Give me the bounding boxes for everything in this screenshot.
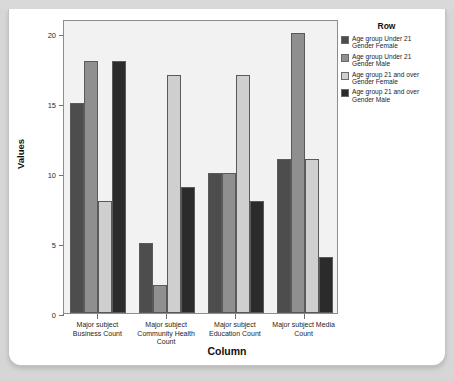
legend-items: Age group Under 21Gender FemaleAge group… bbox=[341, 35, 444, 103]
bar[interactable] bbox=[319, 257, 333, 313]
y-axis-tick-label: 5 bbox=[52, 241, 56, 250]
bar[interactable] bbox=[208, 173, 222, 313]
x-axis-tick bbox=[166, 314, 167, 319]
bar[interactable] bbox=[236, 75, 250, 313]
legend-item-label: Age group 21 and overGender Male bbox=[352, 88, 419, 103]
bar[interactable] bbox=[305, 159, 319, 313]
bar[interactable] bbox=[84, 61, 98, 313]
x-axis-tick-label: Major subject Business Count bbox=[63, 321, 132, 338]
legend-title: Row bbox=[341, 21, 444, 31]
legend-item[interactable]: Age group Under 21Gender Male bbox=[341, 53, 444, 68]
legend-label-line-1: Age group 21 and over bbox=[352, 88, 419, 95]
legend-item-label: Age group Under 21Gender Male bbox=[352, 53, 411, 68]
bars-layer bbox=[64, 21, 337, 313]
x-axis-tick bbox=[235, 314, 236, 319]
x-axis-tick-label: Major subject Community Health Count bbox=[132, 321, 201, 347]
legend-swatch-icon bbox=[341, 89, 349, 97]
bar[interactable] bbox=[112, 61, 126, 313]
bar[interactable] bbox=[70, 103, 84, 313]
legend-label-line-2: Gender Female bbox=[352, 78, 419, 85]
bar[interactable] bbox=[167, 75, 181, 313]
legend-item-label: Age group 21 and overGender Female bbox=[352, 71, 419, 86]
chart-card: 05101520 Values Column Row Age group Und… bbox=[8, 9, 446, 366]
legend-item[interactable]: Age group 21 and overGender Female bbox=[341, 71, 444, 86]
legend-swatch-icon bbox=[341, 36, 349, 44]
bar-group bbox=[270, 21, 339, 313]
x-axis-title: Column bbox=[9, 345, 445, 357]
y-axis-tick-label: 10 bbox=[48, 171, 56, 180]
legend-label-line-2: Gender Male bbox=[352, 96, 419, 103]
bar[interactable] bbox=[98, 201, 112, 313]
legend-swatch-icon bbox=[341, 54, 349, 62]
bar-group bbox=[64, 21, 133, 313]
plot-area bbox=[63, 20, 338, 314]
bar[interactable] bbox=[291, 33, 305, 313]
legend-label-line-2: Gender Female bbox=[352, 42, 411, 49]
legend-label-line-1: Age group Under 21 bbox=[352, 35, 411, 42]
bar[interactable] bbox=[250, 201, 264, 313]
legend-item-label: Age group Under 21Gender Female bbox=[352, 35, 411, 50]
bar[interactable] bbox=[153, 285, 167, 313]
clipped-header-text bbox=[0, 0, 454, 9]
x-axis-tick-label: Major subject Education Count bbox=[201, 321, 270, 338]
bar[interactable] bbox=[139, 243, 153, 313]
legend-label-line-2: Gender Male bbox=[352, 60, 411, 67]
legend: Row Age group Under 21Gender FemaleAge g… bbox=[341, 21, 444, 106]
legend-label-line-1: Age group 21 and over bbox=[352, 71, 419, 78]
x-axis-tick-label: Major subject Media Count bbox=[269, 321, 338, 338]
bar-group bbox=[202, 21, 271, 313]
legend-label-line-1: Age group Under 21 bbox=[352, 53, 411, 60]
bar-group bbox=[133, 21, 202, 313]
x-axis-tick bbox=[304, 314, 305, 319]
bar[interactable] bbox=[277, 159, 291, 313]
x-axis-tick bbox=[97, 314, 98, 319]
bar[interactable] bbox=[181, 187, 195, 313]
screenshot-root: 05101520 Values Column Row Age group Und… bbox=[0, 0, 454, 381]
y-axis-tick-label: 15 bbox=[48, 101, 56, 110]
y-axis-tick-label: 20 bbox=[48, 31, 56, 40]
legend-item[interactable]: Age group 21 and overGender Male bbox=[341, 88, 444, 103]
legend-swatch-icon bbox=[341, 72, 349, 80]
legend-item[interactable]: Age group Under 21Gender Female bbox=[341, 35, 444, 50]
y-axis-tick-label: 0 bbox=[52, 311, 56, 320]
bar[interactable] bbox=[222, 173, 236, 313]
y-axis-title: Values bbox=[15, 139, 26, 169]
